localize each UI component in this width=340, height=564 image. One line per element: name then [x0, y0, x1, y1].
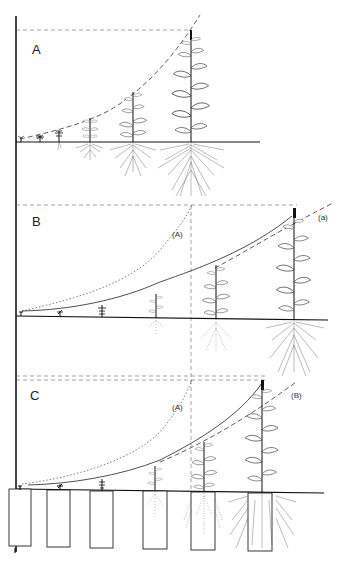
panel-a-plant-4 — [76, 118, 103, 160]
panel-a-label: A — [32, 42, 41, 57]
panel-b-label-ref-a: (A) — [172, 230, 183, 239]
panel-b-label: B — [32, 214, 41, 229]
panel-b-plant-1 — [19, 312, 23, 316]
panel-b-ground-line — [16, 316, 328, 320]
panel-c: C (A) (B) — [9, 380, 324, 551]
panel-c-pot-6 — [248, 493, 272, 551]
panel-c-pot-2 — [47, 490, 70, 547]
panel-c-plant-6 — [228, 380, 296, 548]
panel-b-label-a-lower: (a) — [318, 213, 328, 222]
panel-c-pot-3 — [90, 491, 113, 548]
panel-c-growth-curve — [28, 383, 262, 485]
panel-c-label-b: (B) — [291, 391, 302, 400]
panel-b: B (A) (a) — [16, 203, 333, 382]
panel-b-reference-curve-a — [22, 205, 192, 311]
growth-diagram: A — [0, 0, 340, 564]
panel-c-reference-curve-a — [22, 380, 192, 484]
panel-a-growth-curve — [20, 15, 200, 139]
panel-b-plant-6 — [266, 208, 324, 376]
panel-b-plant-2 — [57, 310, 63, 316]
panel-b-plant-5 — [202, 265, 230, 352]
panel-c-pot-4 — [143, 491, 167, 549]
panel-a: A — [16, 15, 260, 196]
panel-b-growth-curve — [22, 216, 292, 311]
panel-a-plant-1 — [18, 136, 24, 142]
panel-c-label: C — [30, 388, 39, 403]
panel-a-plant-6 — [158, 30, 224, 196]
panel-c-plant-3 — [99, 479, 105, 491]
panel-a-plant-3 — [55, 131, 63, 150]
panel-c-label-ref-a: (A) — [172, 403, 183, 412]
panel-b-plant-4 — [148, 294, 164, 335]
panel-b-extrapolated-curve — [215, 203, 333, 268]
panel-a-plant-5 — [110, 92, 156, 176]
panel-b-plant-3 — [98, 305, 106, 317]
panel-a-plant-2 — [36, 135, 44, 142]
panel-c-pot-1 — [9, 489, 31, 546]
panel-c-pot-5 — [191, 492, 215, 550]
